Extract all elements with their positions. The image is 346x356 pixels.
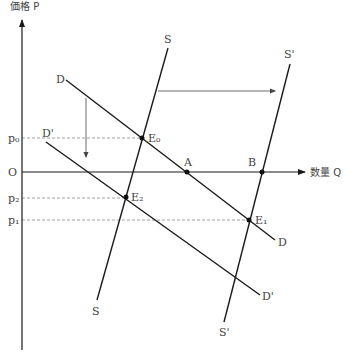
curve-label-D-start: D [56, 73, 65, 86]
price-label-p0: p₀ [8, 132, 20, 145]
point-label-A: A [183, 156, 193, 169]
supply-curve-S-prime [224, 64, 290, 322]
y-axis-label: 価格 P [10, 0, 39, 12]
x-axis-label: 数量 Q [310, 166, 341, 178]
point-E2 [124, 195, 129, 200]
curve-label-S-prime-bottom: S' [219, 326, 230, 339]
point-label-E0: E₀ [148, 132, 161, 145]
curve-label-D-prime-start: D' [42, 127, 54, 140]
curve-label-S-bottom: S [92, 305, 100, 318]
point-E1 [247, 218, 252, 223]
point-label-E1: E₁ [255, 214, 267, 227]
price-label-p2: p₂ [8, 192, 19, 205]
price-label-p1: p₁ [8, 214, 19, 227]
origin-label: O [8, 166, 17, 179]
diagram-canvas: 価格 P 数量 Q O p₀ p₂ p₁ D D D' D' S S S' S'… [0, 0, 346, 356]
point-label-B: B [248, 156, 256, 169]
curve-label-S-top: S [164, 33, 172, 46]
demand-curve-D [66, 80, 275, 240]
point-E0 [140, 136, 145, 141]
point-A [185, 170, 190, 175]
demand-curve-D-prime [46, 142, 260, 295]
supply-curve-S [97, 48, 168, 300]
curve-label-D-end: D [278, 236, 287, 249]
curve-label-D-prime-end: D' [262, 290, 274, 303]
point-B [260, 170, 265, 175]
point-label-E2: E₂ [131, 191, 143, 204]
supply-demand-diagram: 価格 P 数量 Q O p₀ p₂ p₁ D D D' D' S S S' S'… [0, 0, 346, 356]
curve-label-S-prime-top: S' [284, 48, 295, 61]
